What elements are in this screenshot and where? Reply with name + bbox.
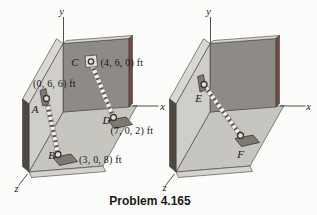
anchor-F-ring — [238, 133, 244, 139]
axis-label-y-left: y — [58, 6, 64, 17]
coords-label-B: (3, 0, 8) ft — [79, 154, 122, 166]
anchor-B-ring — [55, 152, 61, 158]
room-right — [166, 17, 306, 186]
figure-canvas: y x z C (4, 6, 0) ft (0, 6, 6) ft A D (7… — [0, 0, 317, 215]
axis-label-x-right: x — [305, 101, 311, 112]
coords-label-C: (4, 6, 0) ft — [101, 57, 144, 69]
axis-label-x-left: x — [159, 101, 165, 112]
axis-label-z-left: z — [13, 183, 18, 194]
axis-label-y-right: y — [205, 6, 211, 17]
point-label-E: E — [194, 92, 202, 104]
problem-figure: y x z C (4, 6, 0) ft (0, 6, 6) ft A D (7… — [0, 0, 317, 215]
anchor-C — [85, 55, 98, 68]
coords-label-D: (7, 0, 2) ft — [111, 125, 154, 137]
point-label-B: B — [48, 149, 55, 161]
anchor-E-ring — [201, 82, 207, 88]
coords-label-A: (0, 6, 6) ft — [33, 78, 76, 90]
anchor-C-plate — [85, 55, 98, 68]
axis-label-z-right: z — [161, 182, 166, 193]
point-label-D: D — [102, 114, 111, 126]
anchor-D-ring — [111, 115, 117, 121]
point-label-F: F — [236, 148, 244, 160]
point-label-C: C — [71, 56, 79, 68]
figure-caption: Problem 4.165 — [109, 194, 190, 208]
anchor-A-ring — [44, 96, 50, 102]
point-label-A: A — [31, 103, 39, 115]
